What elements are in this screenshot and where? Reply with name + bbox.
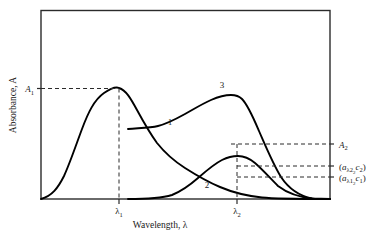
y-tick-label-a1: A1 bbox=[24, 84, 34, 96]
curve-series-1 bbox=[41, 88, 330, 199]
chart-canvas: Wavelength, λ Absorbance, A λ1 λ2 A1 A2 … bbox=[0, 0, 381, 237]
curve-series-2 bbox=[128, 156, 330, 199]
curve-annotation-2: 2 bbox=[205, 180, 210, 190]
curve-annotation-3: 3 bbox=[220, 80, 225, 90]
x-axis-title: Wavelength, λ bbox=[133, 220, 188, 230]
plot-frame bbox=[41, 11, 330, 200]
x-tick-label-lambda2: λ2 bbox=[233, 206, 241, 218]
level-label-a2: A2 bbox=[338, 140, 348, 152]
curve-annotation-1: 1 bbox=[168, 117, 173, 127]
y-axis-title: Absorbance, A bbox=[8, 77, 18, 134]
absorbance-spectrum-figure: Wavelength, λ Absorbance, A λ1 λ2 A1 A2 … bbox=[0, 0, 381, 237]
curve-series-3 bbox=[128, 95, 330, 199]
x-tick-label-lambda1: λ1 bbox=[115, 206, 123, 218]
